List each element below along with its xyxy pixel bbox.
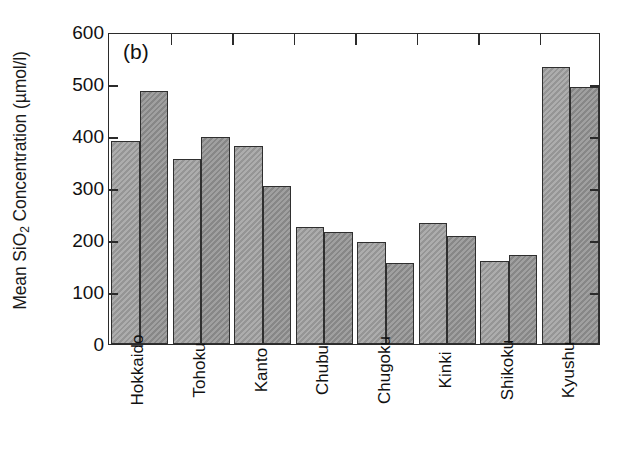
x-axis-category-label: Chubu: [312, 350, 334, 460]
y-tick-label: 600: [46, 23, 104, 42]
x-axis-group-tick-mark: [171, 34, 173, 45]
y-axis-title: Mean SiO2 Concentration (µmol/l): [0, 0, 40, 360]
x-axis-category-label: Kyushu: [558, 350, 580, 460]
plot-area: (b): [108, 33, 600, 345]
bar: [542, 67, 571, 344]
x-axis-group-tick-mark: [294, 34, 296, 45]
x-axis-group-tick-mark: [355, 34, 357, 45]
x-axis-category-label-text: Chugoku: [375, 336, 395, 404]
y-axis-tick-mark: [590, 241, 599, 243]
y-axis-title-prefix: Mean SiO: [10, 232, 30, 309]
bar: [201, 137, 230, 344]
bar: [480, 261, 509, 344]
y-axis-tick-mark: [590, 137, 599, 139]
x-axis-category-label-text: Kanto: [252, 348, 272, 392]
y-axis-title-text: Mean SiO2 Concentration (µmol/l): [10, 51, 31, 310]
x-axis-category-label-text: Chubu: [313, 345, 333, 395]
y-tick-label: 500: [46, 75, 104, 94]
bar: [357, 242, 386, 344]
x-axis-category-label-text: Kinki: [436, 352, 456, 389]
bar: [447, 236, 476, 344]
y-axis-tick-mark: [109, 189, 118, 191]
x-axis-group-tick-mark: [417, 34, 419, 45]
figure-panel-b: Mean SiO2 Concentration (µmol/l) 0100200…: [0, 0, 626, 465]
y-axis-tick-mark: [109, 293, 118, 295]
y-axis-tick-mark: [109, 241, 118, 243]
x-axis-category-label: Chugoku: [374, 350, 396, 460]
bar: [324, 232, 353, 344]
y-tick-label: 300: [46, 179, 104, 198]
bar: [140, 91, 169, 344]
bar: [173, 159, 202, 344]
y-axis-tick-labels: 0100200300400500600: [40, 0, 104, 465]
y-axis-tick-mark: [109, 137, 118, 139]
bar: [296, 227, 325, 344]
y-tick-label: 400: [46, 127, 104, 146]
bar: [234, 146, 263, 344]
x-axis-category-label: Tohoku: [189, 350, 211, 460]
x-axis-category-label-text: Hokkaido: [129, 335, 149, 406]
bar: [509, 255, 538, 344]
x-axis-category-label-text: Shikoku: [498, 340, 518, 400]
x-axis-category-label: Kinki: [435, 350, 457, 460]
x-axis-category-label: Kanto: [251, 350, 273, 460]
y-tick-label: 100: [46, 283, 104, 302]
x-axis-category-label: Shikoku: [497, 350, 519, 460]
y-axis-title-subscript: 2: [18, 226, 32, 233]
x-axis-category-label: Hokkaido: [128, 350, 150, 460]
y-axis-tick-mark: [590, 293, 599, 295]
x-axis-group-tick-mark: [478, 34, 480, 45]
bar: [386, 263, 415, 344]
x-axis-category-label-text: Tohoku: [190, 343, 210, 398]
y-axis-tick-mark: [590, 85, 599, 87]
y-tick-label: 200: [46, 231, 104, 250]
y-tick-label: 0: [46, 335, 104, 354]
x-axis-category-label-text: Kyushu: [559, 342, 579, 399]
bar-series-container: [109, 34, 599, 344]
bar: [570, 87, 599, 344]
y-axis-title-suffix: Concentration (µmol/l): [10, 51, 30, 226]
x-axis-category-labels: HokkaidoTohokuKantoChubuChugokuKinkiShik…: [108, 350, 600, 462]
y-axis-tick-mark: [109, 85, 118, 87]
y-axis-tick-mark: [590, 189, 599, 191]
x-axis-group-tick-mark: [232, 34, 234, 45]
x-axis-group-tick-mark: [540, 34, 542, 45]
bar: [419, 223, 448, 344]
bar: [263, 186, 292, 344]
